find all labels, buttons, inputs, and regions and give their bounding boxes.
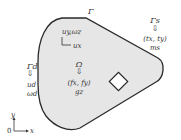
y-axis-label: y bbox=[11, 111, 15, 119]
neumann-moment: ms bbox=[150, 44, 160, 52]
body-force-arrow-icon: ⇩ bbox=[76, 68, 83, 76]
neumann-arrow-icon: ⇩ bbox=[152, 25, 159, 33]
boundary-label: Γ bbox=[88, 8, 94, 16]
body-force-label: (fx, fy) bbox=[68, 79, 91, 87]
neumann-traction: (tx, ty) bbox=[143, 35, 166, 43]
dof-vertical-label: uy,ωz bbox=[62, 28, 81, 36]
origin-label: 0 bbox=[7, 127, 11, 135]
x-axis-arrowhead bbox=[26, 130, 29, 133]
dirichlet-rotation: ωd bbox=[27, 90, 37, 98]
dirichlet-displacement: ud bbox=[27, 81, 36, 89]
dirichlet-arrow-icon: ⇩ bbox=[27, 70, 34, 78]
x-axis-label: x bbox=[30, 127, 34, 135]
dof-horizontal-label: ux bbox=[73, 42, 81, 50]
body-couple-label: gz bbox=[75, 88, 83, 96]
